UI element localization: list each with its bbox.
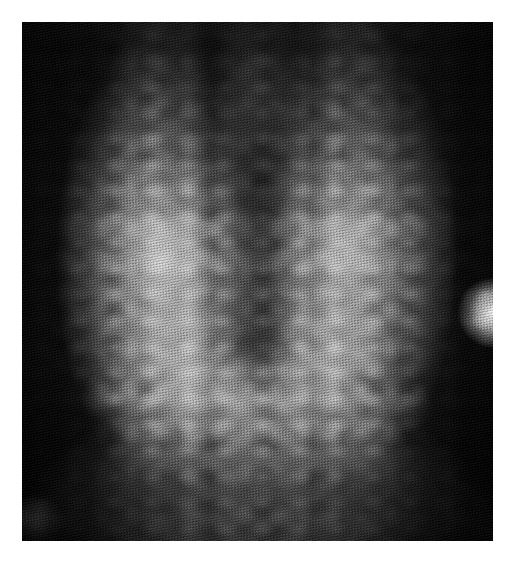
film-grain-texture — [22, 22, 493, 541]
right-pedicle-column — [22, 22, 493, 541]
central-canal-channel — [22, 22, 493, 541]
film-base-layer — [22, 22, 493, 541]
radiograph-image — [22, 22, 493, 541]
trabecular-mottle-texture — [22, 22, 493, 541]
left-pedicle-column — [22, 22, 493, 541]
radiograph-render-stack — [22, 22, 493, 541]
halftone-screen-texture — [22, 22, 493, 541]
page-canvas: Grayscale anteroposterior radiograph of … — [0, 0, 519, 578]
figure-alt-text: Grayscale anteroposterior radiograph of … — [0, 0, 1, 1]
corner-vignette-layer — [22, 22, 493, 541]
lateral-soft-tissue-flares — [22, 22, 493, 541]
halftone-cross-screen-texture — [22, 22, 493, 541]
sacrum-bright-mass — [22, 22, 493, 541]
